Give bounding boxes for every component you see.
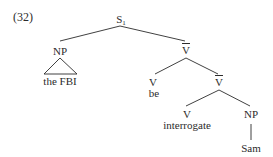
node-np-subject: NP: [53, 46, 67, 57]
tree-branches: [0, 0, 273, 157]
node-np-object: NP: [244, 109, 258, 120]
node-vbar-2: V: [215, 77, 223, 88]
terminal-interrogate: interrogate: [163, 120, 211, 131]
node-s1: S1: [116, 14, 126, 29]
terminal-be: be: [149, 88, 159, 99]
terminal-the-fbi: the FBI: [43, 76, 76, 87]
terminal-sam: Sam: [241, 143, 261, 154]
node-vbar-1: V: [182, 45, 190, 56]
